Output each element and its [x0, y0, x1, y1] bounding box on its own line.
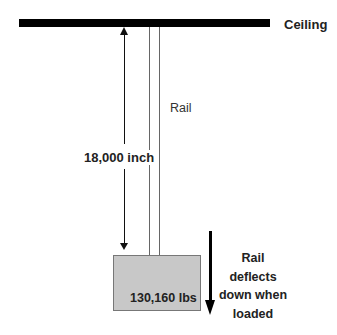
dimension-arrow-down-icon [120, 243, 128, 250]
deflection-arrow-shaft [209, 231, 212, 303]
dimension-label: 18,000 inch [82, 150, 156, 165]
deflection-label-line-1: Rail deflects [218, 249, 288, 286]
load-label: 130,160 lbs [130, 291, 197, 305]
deflection-label: Rail deflects down when loaded [218, 249, 288, 323]
deflection-label-line-2: down when [218, 286, 288, 305]
dimension-line-top [124, 34, 125, 144]
rail-right-edge [159, 27, 160, 256]
rail-left-edge [149, 27, 150, 256]
ceiling-label: Ceiling [284, 17, 327, 32]
dimension-line-bottom [124, 169, 125, 244]
ceiling-bar [19, 19, 270, 27]
deflection-arrow-down-icon [205, 300, 215, 315]
deflection-label-line-3: loaded [218, 305, 288, 324]
rail-label: Rail [170, 101, 192, 115]
